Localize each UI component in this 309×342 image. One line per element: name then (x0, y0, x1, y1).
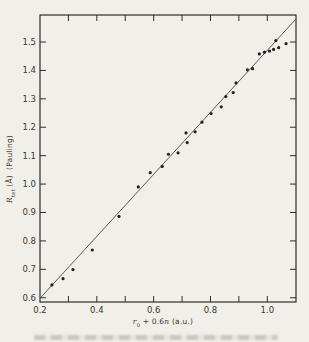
y-tick-label: 1.0 (22, 179, 36, 189)
y-tick-label: 1.2 (22, 122, 36, 132)
y-tick-label: 0.7 (22, 264, 36, 274)
y-tick-label: 1.5 (22, 37, 36, 47)
y-tick-label: 1.3 (22, 94, 36, 104)
data-point (232, 91, 235, 94)
data-point (268, 49, 271, 52)
y-tick-label: 1.4 (22, 65, 36, 75)
data-point (186, 141, 189, 144)
data-point (137, 185, 140, 188)
data-point (117, 215, 120, 218)
y-axis-units-pauling: (Pauling) (5, 135, 14, 172)
scatter-plot-canvas: 0.20.40.60.81.00.60.70.80.91.01.11.21.31… (0, 0, 309, 342)
data-point (149, 171, 152, 174)
data-point (91, 248, 94, 251)
data-point (246, 68, 249, 71)
x-axis-expression: + 0.6 (140, 317, 164, 326)
y-tick-label: 0.8 (22, 236, 36, 246)
data-point (209, 112, 212, 115)
x-tick-label: 1.0 (261, 305, 275, 315)
data-point (71, 268, 74, 271)
fit-line (41, 19, 296, 298)
data-point (263, 51, 266, 54)
data-point (176, 151, 179, 154)
data-point (50, 283, 53, 286)
y-axis-units-angstrom: (Å) (5, 175, 14, 189)
data-point (220, 105, 223, 108)
data-point (274, 39, 277, 42)
y-tick-label: 0.9 (22, 207, 36, 217)
y-tick-label: 0.6 (22, 293, 36, 303)
x-axis-units: (a.u.) (169, 317, 193, 326)
data-point (167, 153, 170, 156)
cropped-caption-text (34, 335, 278, 340)
scanned-figure-page: 0.20.40.60.81.00.60.70.80.91.01.11.21.31… (0, 0, 309, 342)
x-tick-label: 0.4 (90, 305, 104, 315)
data-point (184, 131, 187, 134)
y-axis-title: Rtet (Å) (Pauling) (5, 109, 19, 229)
data-point (194, 130, 197, 133)
data-point (161, 165, 164, 168)
y-tick-label: 1.1 (22, 151, 36, 161)
data-point (284, 42, 287, 45)
x-tick-label: 0.6 (147, 305, 161, 315)
x-tick-label: 0.8 (204, 305, 218, 315)
data-point (251, 67, 254, 70)
x-axis-title: r0 + 0.6n (a.u.) (88, 317, 238, 326)
data-point (272, 48, 275, 51)
data-point (200, 121, 203, 124)
y-axis-subscript: tet (10, 189, 16, 197)
data-point (234, 81, 237, 84)
y-axis-variable: R (5, 197, 14, 203)
data-point (224, 95, 227, 98)
x-tick-label: 0.2 (33, 305, 47, 315)
data-point (61, 277, 64, 280)
data-point (258, 52, 261, 55)
data-point (277, 46, 280, 49)
